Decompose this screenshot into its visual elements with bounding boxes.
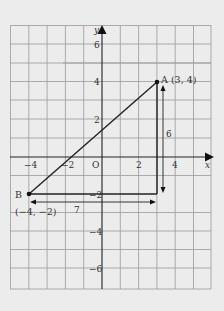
y-tick--4: −4 xyxy=(89,227,103,237)
y-axis-label: y xyxy=(93,25,100,35)
y-tick--2: −2 xyxy=(89,190,102,200)
axes xyxy=(10,30,208,289)
point-a xyxy=(155,80,160,85)
vertical-measure-arrow-down-icon xyxy=(161,187,166,193)
origin-label: O xyxy=(92,160,99,170)
horizontal-measure-arrow-left-icon xyxy=(30,200,36,205)
y-tick-6: 6 xyxy=(94,40,100,50)
point-b-label: B xyxy=(15,189,22,200)
horizontal-measure-arrow-right-icon xyxy=(150,200,156,205)
vertical-measure-arrow-up-icon xyxy=(161,85,166,91)
x-tick--2: −2 xyxy=(61,160,74,170)
point-b xyxy=(27,192,32,197)
vertical-distance-label: 6 xyxy=(166,129,172,139)
y-tick-4: 4 xyxy=(94,77,100,87)
x-tick--4: −4 xyxy=(24,160,38,170)
y-tick-2: 2 xyxy=(94,115,100,125)
x-axis-label: x xyxy=(205,160,210,170)
horizontal-distance-label: 7 xyxy=(74,205,80,215)
x-tick-4: 4 xyxy=(172,160,178,170)
y-tick--6: −6 xyxy=(89,264,103,274)
coordinate-plane: y x O −4 −2 2 4 6 4 2 −2 −4 −6 A (3, 4) … xyxy=(0,0,224,311)
x-tick-2: 2 xyxy=(136,160,142,170)
point-b-coords: (−4, −2) xyxy=(15,206,56,217)
point-a-label: A (3, 4) xyxy=(160,74,196,85)
